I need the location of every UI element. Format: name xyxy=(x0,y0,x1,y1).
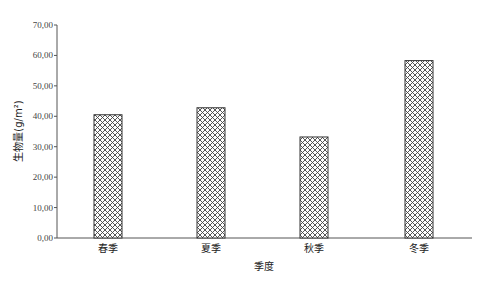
bar-1 xyxy=(94,115,122,238)
y-tick-label: 0,00 xyxy=(37,233,53,243)
y-axis: 0,0010,0020,0030,0040,0050,0060,0070,00 xyxy=(33,20,57,243)
bars xyxy=(94,61,433,238)
x-axis-title: 季度 xyxy=(254,260,274,272)
bar-2 xyxy=(197,108,225,238)
bar-chart: 0,0010,0020,0030,0040,0050,0060,0070,00 … xyxy=(0,0,486,282)
bar-3 xyxy=(300,137,328,238)
y-tick-label: 40,00 xyxy=(33,111,54,121)
y-tick-label: 20,00 xyxy=(33,172,54,182)
y-tick-label: 30,00 xyxy=(33,142,54,152)
bar-4 xyxy=(405,61,433,238)
y-tick-label: 60,00 xyxy=(33,50,54,60)
y-tick-label: 10,00 xyxy=(33,203,54,213)
y-tick-label: 70,00 xyxy=(33,20,54,30)
x-category-label: 秋季 xyxy=(304,242,324,254)
y-axis-title: 生物量(g/m²) xyxy=(12,100,24,161)
x-axis: 春季夏季秋季冬季 xyxy=(57,238,472,254)
y-tick-label: 50,00 xyxy=(33,81,54,91)
x-category-label: 夏季 xyxy=(201,243,221,254)
x-category-label: 冬季 xyxy=(409,242,429,254)
x-category-label: 春季 xyxy=(98,243,118,254)
